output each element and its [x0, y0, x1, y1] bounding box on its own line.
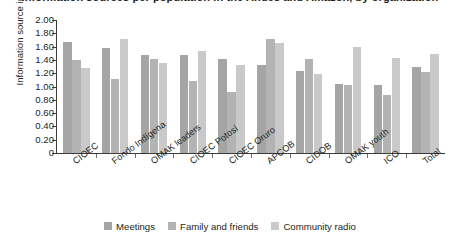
bar-community-radio: [275, 43, 283, 153]
bar-community-radio: [392, 58, 400, 153]
bar-community-radio: [353, 47, 361, 153]
bar-meetings: [102, 48, 110, 153]
bar-meetings: [63, 42, 71, 153]
y-axis-tick-mark: [52, 153, 56, 154]
bar-community-radio: [159, 63, 167, 153]
bar-community-radio: [198, 51, 206, 153]
x-axis-category-labels: CIOECFondo IndígenaOMAK leadersCIOEC Pot…: [0, 156, 460, 212]
legend-label: Family and friends: [180, 221, 258, 232]
bar-meetings: [412, 67, 420, 153]
bar-group: [412, 20, 438, 153]
bar-group: [63, 20, 89, 153]
bar-family-and-friends: [111, 79, 119, 153]
bar-family-and-friends: [383, 95, 391, 153]
y-axis-tick-labels: 00.200.400.600.801.001.201.401.601.802.0…: [22, 16, 54, 158]
bar-community-radio: [236, 65, 244, 153]
y-axis-tick-mark: [52, 60, 56, 61]
y-axis-tick-mark: [52, 140, 56, 141]
bar-group: [335, 20, 361, 153]
y-axis-tick-mark: [52, 73, 56, 74]
y-axis-tick-mark: [52, 20, 56, 21]
bar-community-radio: [430, 54, 438, 153]
legend-label: Meetings: [116, 221, 155, 232]
bar-community-radio: [314, 74, 322, 153]
legend-swatch-icon: [104, 222, 112, 230]
y-axis-tick-mark: [52, 47, 56, 48]
chart-title: Information sources per population in th…: [0, 0, 460, 5]
y-axis-tick-mark: [52, 87, 56, 88]
bar-family-and-friends: [72, 60, 80, 153]
y-axis-tick-mark: [52, 126, 56, 127]
y-axis-tick-mark: [52, 33, 56, 34]
bar-family-and-friends: [305, 59, 313, 153]
bar-meetings: [335, 84, 343, 153]
bar-community-radio: [81, 68, 89, 153]
bar-community-radio: [120, 39, 128, 153]
chart-figure: Information sources per population in th…: [0, 0, 460, 236]
legend-swatch-icon: [168, 222, 176, 230]
chart-legend: MeetingsFamily and friendsCommunity radi…: [0, 219, 460, 233]
legend-item: Meetings: [104, 221, 155, 232]
legend-swatch-icon: [271, 222, 279, 230]
bar-group: [102, 20, 128, 153]
legend-label: Community radio: [283, 221, 356, 232]
bar-meetings: [296, 71, 304, 153]
legend-item: Family and friends: [168, 221, 258, 232]
bar-family-and-friends: [344, 85, 352, 153]
bar-family-and-friends: [189, 81, 197, 153]
legend-item: Community radio: [271, 221, 356, 232]
bar-family-and-friends: [421, 72, 429, 153]
bar-group: [296, 20, 322, 153]
y-axis-tick-mark: [52, 113, 56, 114]
y-axis-tick-mark: [52, 100, 56, 101]
